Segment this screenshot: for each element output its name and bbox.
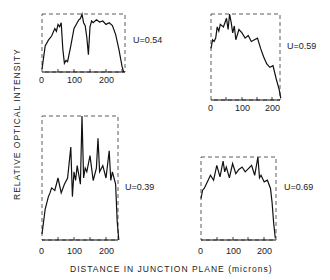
panel-1: 0 100 200 U=0.54 xyxy=(39,14,162,85)
y-axis-title: RELATIVE OPTICAL INTENSITY xyxy=(12,48,22,200)
tick-label: 100 xyxy=(235,103,250,113)
uniformity-label: U=0.54 xyxy=(133,35,162,45)
panel-3: 0 100 200 U=0.39 xyxy=(39,116,154,256)
panel-4-curve xyxy=(201,157,275,238)
panel-3-curve xyxy=(42,116,119,240)
tick-label: 0 xyxy=(39,75,44,85)
tick-label: 100 xyxy=(226,246,241,256)
tick-label: 0 xyxy=(198,246,203,256)
panel-2-frame xyxy=(211,14,280,100)
tick-label: 200 xyxy=(99,246,114,256)
uniformity-label: U=0.69 xyxy=(284,182,313,192)
x-axis-title: DISTANCE IN JUNCTION PLANE (microns) xyxy=(70,264,273,274)
tick-label: 100 xyxy=(67,75,82,85)
tick-label: 100 xyxy=(67,246,82,256)
figure: RELATIVE OPTICAL INTENSITY DISTANCE IN J… xyxy=(0,0,330,280)
tick-label: 200 xyxy=(99,75,114,85)
panel-2: 0 100 200 U=0.59 xyxy=(208,14,316,113)
tick-label: 200 xyxy=(265,103,280,113)
panel-2-curve xyxy=(211,14,281,98)
panel-4: 0 100 200 U=0.69 xyxy=(198,157,313,256)
tick-label: 200 xyxy=(257,246,272,256)
panel-1-curve xyxy=(42,14,124,72)
tick-label: 0 xyxy=(208,103,213,113)
uniformity-label: U=0.39 xyxy=(125,182,154,192)
uniformity-label: U=0.59 xyxy=(287,41,316,51)
tick-label: 0 xyxy=(39,246,44,256)
